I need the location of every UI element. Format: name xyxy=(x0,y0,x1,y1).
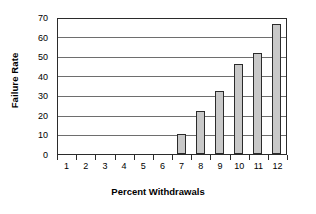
y-axis-tick-label: 0 xyxy=(43,150,48,160)
x-axis-tick-mark xyxy=(153,155,154,160)
x-axis-tick-mark xyxy=(95,155,96,160)
y-axis-tick-label: 40 xyxy=(38,72,48,82)
bar[interactable] xyxy=(196,111,206,154)
bar[interactable] xyxy=(272,24,282,154)
bar-slot xyxy=(115,19,134,154)
y-axis-title-label: Failure Rate xyxy=(10,52,21,108)
y-axis-tick-label: 70 xyxy=(38,13,48,23)
bar-slot xyxy=(267,19,286,154)
y-axis-tick-label: 30 xyxy=(38,91,48,101)
x-axis-tick-mark xyxy=(210,155,211,160)
bar-chart-figure: Failure Rate 010203040506070 12345678910… xyxy=(0,0,316,214)
x-axis-tick-mark xyxy=(57,155,58,160)
bar[interactable] xyxy=(234,64,244,154)
x-axis-tick-mark xyxy=(134,155,135,160)
x-axis-tick-label: 11 xyxy=(249,161,268,175)
bars-layer xyxy=(58,19,286,154)
x-axis-tick-mark xyxy=(287,155,288,160)
bar-slot xyxy=(58,19,77,154)
bar-slot xyxy=(229,19,248,154)
bar-slot xyxy=(248,19,267,154)
x-axis-tick-label: 1 xyxy=(57,161,76,175)
x-axis-tick-label: 9 xyxy=(210,161,229,175)
y-axis-tick-label: 20 xyxy=(38,111,48,121)
bar-slot xyxy=(191,19,210,154)
x-axis-tick-mark xyxy=(172,155,173,160)
x-axis-tick-mark xyxy=(191,155,192,160)
plot-area xyxy=(57,18,287,155)
y-axis-tick-label: 60 xyxy=(38,33,48,43)
bar-slot xyxy=(96,19,115,154)
x-axis-tick-label: 4 xyxy=(115,161,134,175)
bar[interactable] xyxy=(253,53,263,154)
bar-slot xyxy=(134,19,153,154)
x-axis-tick-label: 7 xyxy=(172,161,191,175)
x-axis-tick-mark xyxy=(249,155,250,160)
x-axis-tick-label: 6 xyxy=(153,161,172,175)
y-axis-tick-label: 10 xyxy=(38,130,48,140)
x-axis-tick-label: 8 xyxy=(191,161,210,175)
x-axis-tick-label: 10 xyxy=(230,161,249,175)
x-axis-tick-mark xyxy=(268,155,269,160)
y-axis-tick-label: 50 xyxy=(38,52,48,62)
x-axis-tick-mark xyxy=(76,155,77,160)
x-axis-title: Percent Withdrawals xyxy=(0,186,316,197)
x-axis-tick-label: 5 xyxy=(134,161,153,175)
x-axis-tick-mark xyxy=(230,155,231,160)
bar-slot xyxy=(210,19,229,154)
x-axis-tick-mark xyxy=(115,155,116,160)
x-axis-tick-labels: 123456789101112 xyxy=(57,161,287,175)
bar[interactable] xyxy=(215,91,225,154)
x-axis-tick-marks xyxy=(57,155,287,160)
y-axis-tick-labels: 010203040506070 xyxy=(24,18,52,155)
x-axis-tick-label: 3 xyxy=(95,161,114,175)
x-axis-tick-label: 2 xyxy=(76,161,95,175)
bar-slot xyxy=(172,19,191,154)
x-axis-tick-label: 12 xyxy=(268,161,287,175)
bar-slot xyxy=(153,19,172,154)
bar-slot xyxy=(77,19,96,154)
bar[interactable] xyxy=(177,134,187,154)
